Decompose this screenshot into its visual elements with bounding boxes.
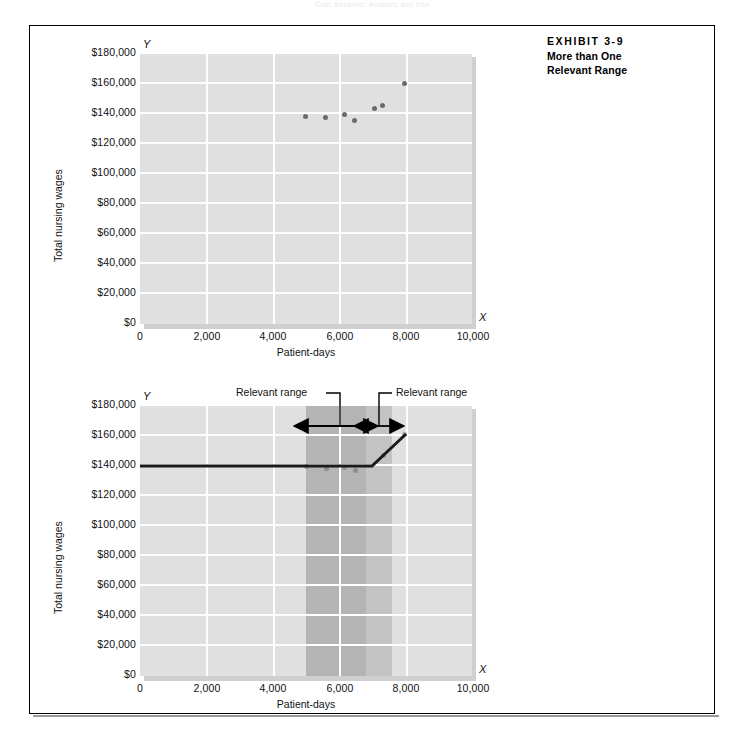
gridline-x-2000 [206, 53, 208, 324]
gridline-y-160000 [140, 82, 472, 84]
data-point [380, 103, 385, 108]
leader-line-relevant-range-1 [326, 393, 340, 426]
y-tick-label: $20,000 [56, 286, 136, 298]
x-tick-label: 0 [115, 682, 165, 694]
x-axis-title-top: Patient-days [231, 346, 381, 358]
data-point [352, 118, 357, 123]
gridline-x-6000 [339, 53, 341, 324]
data-point [323, 115, 328, 120]
gridline-x-8000 [406, 53, 408, 324]
page-canvas: Cost Behavior: Analysis and Use EXHIBIT … [0, 0, 745, 744]
label-relevant-range-2: Relevant range [396, 386, 467, 398]
gridline-x-4000 [273, 53, 275, 324]
y-tick-label: $160,000 [56, 428, 136, 440]
data-point [303, 114, 308, 119]
x-axis-title-bottom: Patient-days [231, 698, 381, 710]
x-axis-letter-top: X [479, 311, 486, 323]
gridline-y-180000 [140, 52, 472, 54]
x-axis-letter-bottom: X [479, 663, 486, 675]
y-tick-label: $120,000 [56, 136, 136, 148]
gridline-y-20000 [140, 292, 472, 294]
y-axis-letter-bottom: Y [143, 390, 150, 402]
plot-area-top [140, 53, 472, 324]
data-point [372, 106, 377, 111]
x-tick-label: 2,000 [182, 682, 232, 694]
running-head: Cost Behavior: Analysis and Use [0, 1, 745, 8]
y-tick-label: $160,000 [56, 76, 136, 88]
exhibit-title: EXHIBIT 3-9 [547, 34, 697, 49]
exhibit-caption: EXHIBIT 3-9 More than One Relevant Range [547, 34, 697, 77]
y-tick-label: $40,000 [56, 608, 136, 620]
x-tick-label: 0 [115, 330, 165, 342]
y-tick-label: $0 [56, 668, 136, 680]
y-tick-label: $80,000 [56, 548, 136, 560]
x-tick-label: 6,000 [315, 330, 365, 342]
x-tick-label: 8,000 [381, 682, 431, 694]
gridline-y-80000 [140, 202, 472, 204]
chart-scatter-top: Y X $180,000 $160,000 $140,000 $120,000 … [30, 26, 550, 346]
chart-line-bottom: Relevant range Relevant range Y X $180,0… [30, 374, 550, 714]
y-tick-label: $180,000 [56, 46, 136, 58]
y-tick-label: $140,000 [56, 458, 136, 470]
x-tick-label: 2,000 [182, 330, 232, 342]
x-tick-label: 8,000 [381, 330, 431, 342]
exhibit-subtitle-line-1: More than One [547, 49, 697, 63]
y-tick-label: $180,000 [56, 398, 136, 410]
exhibit-frame: EXHIBIT 3-9 More than One Relevant Range [29, 25, 715, 714]
y-tick-label: $100,000 [56, 166, 136, 178]
data-point [402, 81, 407, 86]
x-tick-label: 10,000 [448, 330, 498, 342]
y-tick-label: $60,000 [56, 578, 136, 590]
x-tick-label: 6,000 [315, 682, 365, 694]
y-tick-label: $20,000 [56, 638, 136, 650]
x-tick-label: 4,000 [248, 330, 298, 342]
x-tick-label: 4,000 [248, 682, 298, 694]
y-tick-label: $40,000 [56, 256, 136, 268]
y-tick-label: $80,000 [56, 196, 136, 208]
y-tick-label: $120,000 [56, 488, 136, 500]
y-tick-label: $0 [56, 316, 136, 328]
x-tick-label: 10,000 [448, 682, 498, 694]
gridline-y-100000 [140, 172, 472, 174]
y-axis-letter-top: Y [143, 38, 150, 50]
y-axis-title-top: Total nursing wages [52, 169, 64, 262]
gridline-y-60000 [140, 232, 472, 234]
label-relevant-range-1: Relevant range [236, 386, 307, 398]
y-tick-label: $60,000 [56, 226, 136, 238]
data-point [342, 112, 347, 117]
gridline-y-120000 [140, 142, 472, 144]
y-axis-title-bottom: Total nursing wages [52, 521, 64, 614]
leader-line-relevant-range-2 [379, 393, 392, 426]
y-tick-label: $100,000 [56, 518, 136, 530]
exhibit-subtitle-line-2: Relevant Range [547, 63, 697, 77]
y-tick-label: $140,000 [56, 106, 136, 118]
gridline-y-40000 [140, 262, 472, 264]
